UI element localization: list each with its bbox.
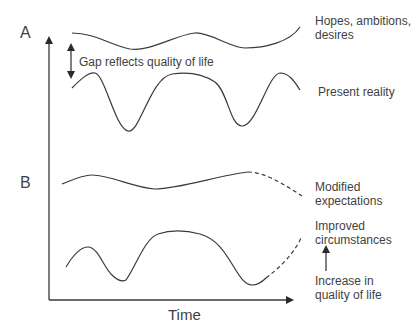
- gap-annotation: Gap reflects quality of life: [79, 55, 214, 69]
- improved-circumstances-projection: [266, 236, 302, 278]
- present-reality-label: Present reality: [318, 85, 395, 99]
- modified-label-line1: Modified: [315, 180, 360, 194]
- improved-label-line2: circumstances: [315, 233, 392, 247]
- hopes-label-line2: desires: [315, 28, 354, 42]
- modified-expectations-curve: [62, 172, 248, 189]
- present-reality-curve: [72, 73, 300, 131]
- increase-label-line1: Increase in: [315, 274, 374, 288]
- improved-label-line1: Improved: [315, 219, 365, 233]
- panel-label-a: A: [20, 24, 31, 42]
- panel-label-b: B: [20, 174, 31, 192]
- gap-arrow-up-icon: [67, 43, 75, 51]
- hopes-curve: [72, 27, 300, 49]
- hopes-label-line1: Hopes, ambitions,: [315, 14, 411, 28]
- improved-circumstances-curve: [66, 231, 266, 285]
- modified-expectations-projection: [248, 172, 302, 196]
- gap-arrow-down-icon: [67, 71, 75, 79]
- x-axis-label: Time: [168, 306, 201, 323]
- increase-label-line2: quality of life: [315, 288, 382, 302]
- modified-label-line2: expectations: [315, 194, 382, 208]
